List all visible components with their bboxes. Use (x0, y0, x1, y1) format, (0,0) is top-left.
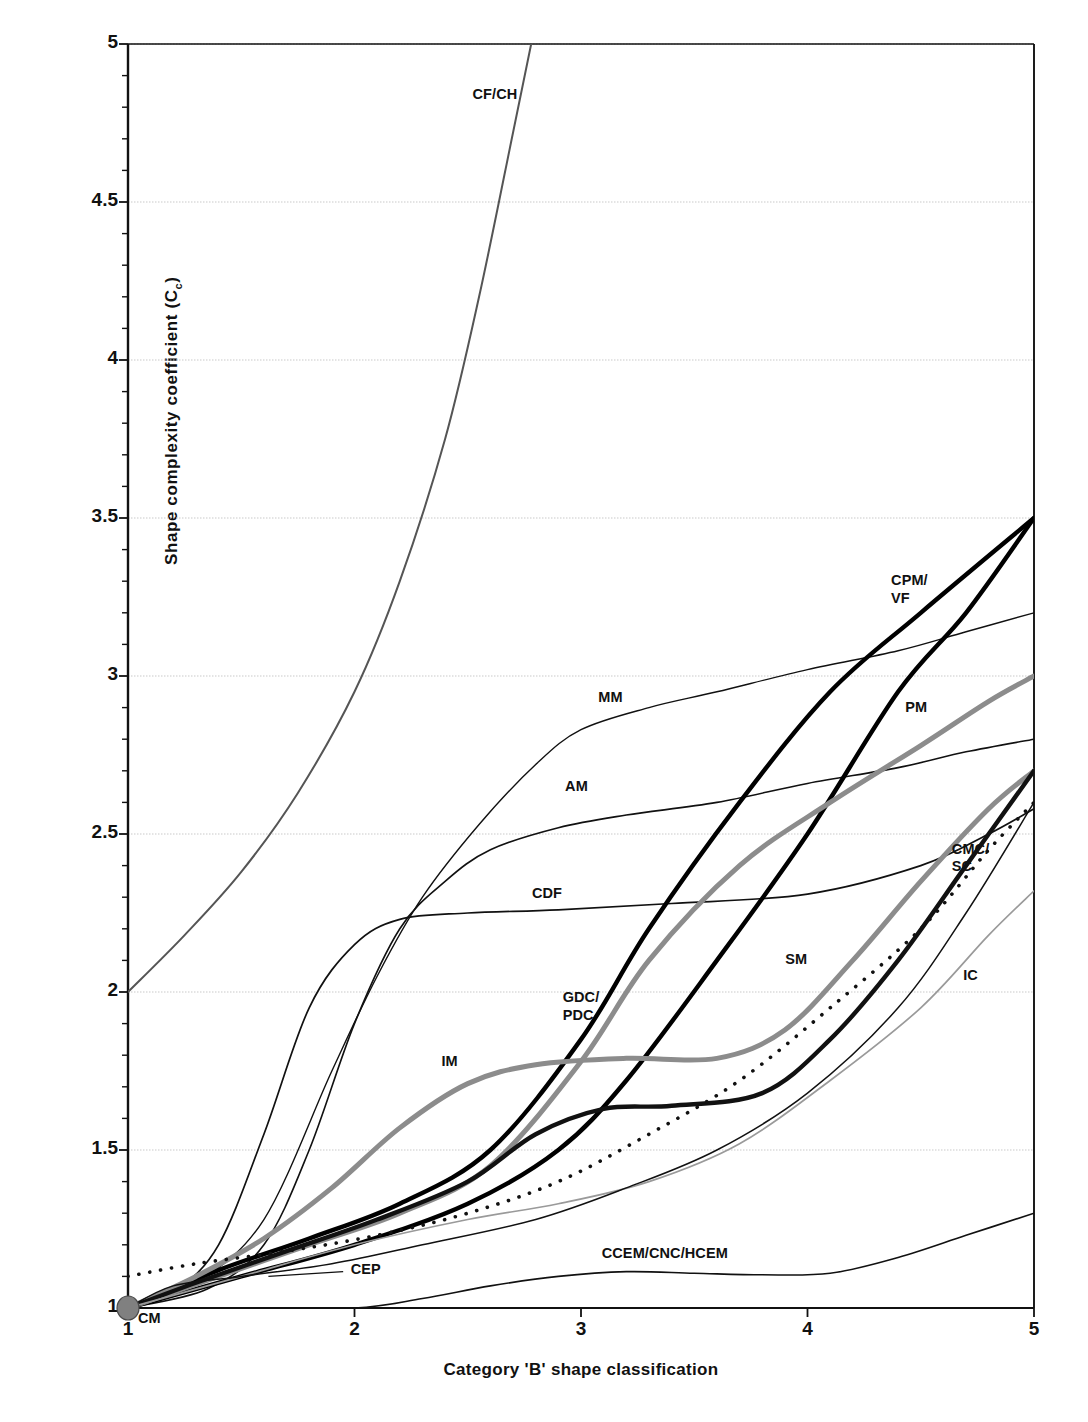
series-line (128, 518, 1034, 1308)
curve-label-sm: SM (785, 951, 807, 969)
curve-label-pm: PM (905, 699, 927, 717)
curve-label-cpm-vf: CPM/ VF (891, 572, 928, 607)
curve-label-cmc-sc: CMC/ SC (952, 841, 989, 876)
curve-label-cm: CM (138, 1310, 161, 1328)
series-line (128, 802, 1034, 1308)
chart-figure: Shape complexity coefficient (Cc) Catego… (0, 0, 1088, 1422)
curve-label-cdf: CDF (532, 885, 562, 903)
origin-marker-cm (117, 1296, 139, 1320)
curve-label-ccem-cnc-hcem: CCEM/CNC/HCEM (602, 1245, 728, 1263)
curve-label-am: AM (565, 778, 588, 796)
label-leader-line (268, 1272, 343, 1277)
curve-label-im: IM (441, 1053, 457, 1071)
series-line (128, 518, 1034, 1308)
curve-label-gdc-pdc: GDC/ PDC (563, 989, 600, 1024)
curve-label-mm: MM (598, 689, 622, 707)
curve-label-cep: CEP (351, 1261, 381, 1279)
curve-label-cf-ch: CF/CH (473, 86, 518, 104)
curve-label-ic: IC (963, 967, 978, 985)
